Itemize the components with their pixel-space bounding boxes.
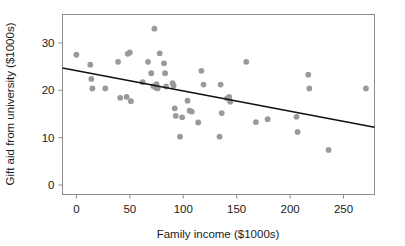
data-point (117, 95, 123, 101)
data-point (162, 70, 168, 76)
data-point (87, 62, 93, 68)
data-point (115, 59, 121, 65)
data-point (128, 98, 134, 104)
data-point (88, 76, 94, 82)
y-axis-title: Gift aid from university ($1000s) (4, 22, 16, 185)
data-point (171, 83, 177, 89)
data-point (199, 68, 205, 74)
x-tick-label: 50 (123, 203, 136, 215)
data-point (294, 114, 300, 120)
data-point (179, 114, 185, 120)
data-point (177, 134, 183, 140)
y-tick-label: 20 (42, 84, 55, 96)
data-point (189, 109, 195, 115)
y-tick-label: 30 (42, 37, 55, 49)
data-point (173, 113, 179, 119)
data-point (161, 60, 167, 66)
data-point (305, 72, 311, 78)
data-point (295, 129, 301, 135)
data-point (151, 26, 157, 32)
data-point (185, 98, 191, 104)
data-point (195, 120, 201, 126)
data-point (243, 59, 249, 65)
data-point (102, 85, 108, 91)
data-point (73, 52, 79, 58)
data-point (172, 105, 178, 111)
data-point (219, 110, 225, 116)
x-tick-label: 150 (227, 203, 246, 215)
scatterplot-figure: 0102030 050100150200250 Family income ($… (0, 0, 405, 246)
x-tick-label: 250 (334, 203, 353, 215)
y-tick-label: 10 (42, 132, 55, 144)
data-point (217, 134, 223, 140)
data-point (201, 82, 207, 88)
data-point (306, 85, 312, 91)
data-point (90, 85, 96, 91)
x-tick-label: 100 (174, 203, 193, 215)
data-point (124, 94, 130, 100)
x-tick-label: 0 (73, 203, 79, 215)
data-point (145, 59, 151, 65)
data-point (363, 85, 369, 91)
y-tick-label: 0 (48, 179, 54, 191)
data-point (253, 119, 259, 125)
x-tick-label: 200 (280, 203, 299, 215)
data-point (218, 82, 224, 88)
data-point (157, 50, 163, 56)
data-point (148, 70, 154, 76)
x-axis-title: Family income ($1000s) (157, 228, 280, 240)
data-point (265, 116, 271, 122)
data-point (127, 49, 133, 55)
data-point (326, 147, 332, 153)
scatter-chart: 0102030 050100150200250 Family income ($… (0, 0, 405, 246)
